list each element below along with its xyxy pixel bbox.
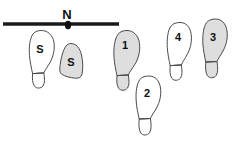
- print-s-left-label: S: [36, 43, 43, 55]
- print-1-arch-line: [117, 75, 128, 76]
- print-1-heel: [117, 75, 129, 90]
- print-2: 2: [136, 76, 161, 135]
- print-2-heel: [139, 119, 151, 136]
- print-s-partial: S: [60, 44, 83, 79]
- print-2-arch-line: [139, 119, 150, 120]
- print-s-partial-label: S: [67, 56, 74, 68]
- print-1-sole: [114, 31, 140, 76]
- print-s-left: S: [29, 31, 54, 89]
- print-3: 3: [203, 19, 227, 78]
- print-s-left-heel: [32, 73, 44, 88]
- reference-line-group: N: [3, 7, 119, 29]
- footprint-track-diagram: N S S 1 2: [0, 0, 233, 142]
- print-4-sole: [167, 23, 191, 66]
- print-4-label: 4: [175, 31, 182, 43]
- print-1-label: 1: [122, 39, 128, 51]
- print-2-label: 2: [144, 87, 150, 99]
- print-3-label: 3: [210, 31, 216, 43]
- print-4-arch-line: [170, 65, 181, 66]
- print-3-heel: [206, 62, 218, 78]
- print-4-heel: [170, 65, 182, 80]
- print-s-left-arch-line: [33, 73, 44, 74]
- north-point-marker: [65, 21, 71, 29]
- north-label: N: [62, 7, 71, 22]
- print-4: 4: [167, 23, 191, 81]
- print-1: 1: [114, 31, 140, 91]
- print-3-arch-line: [206, 62, 217, 63]
